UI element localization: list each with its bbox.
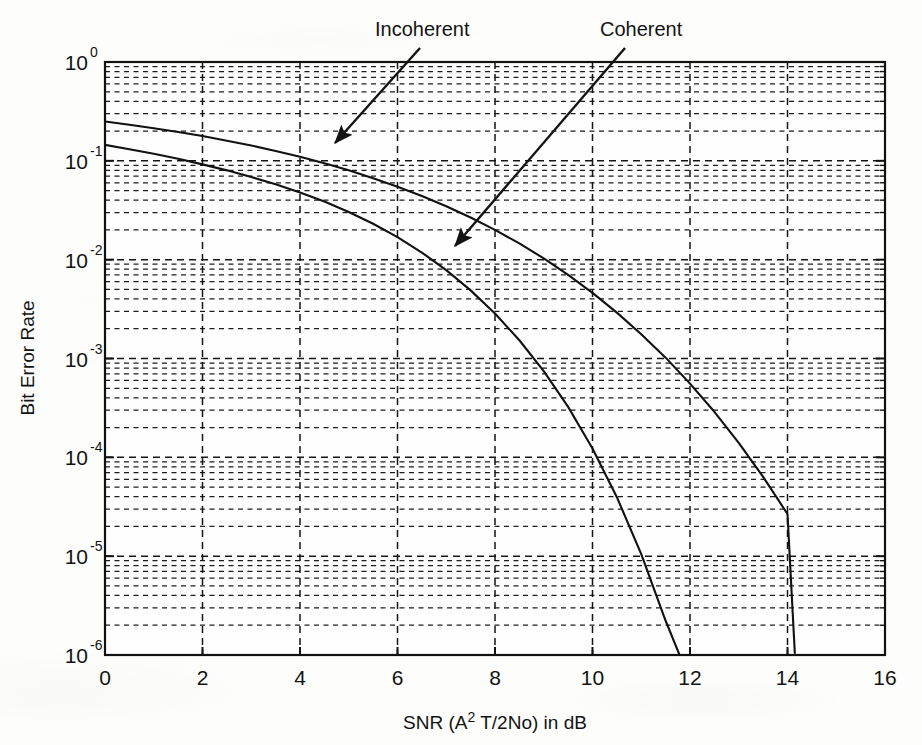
y-tick-label: 10-4: [65, 439, 103, 469]
x-tick-label: 10: [581, 666, 604, 689]
svg-text:10: 10: [65, 249, 88, 272]
y-tick-label: 10-6: [65, 637, 103, 667]
svg-text:10: 10: [65, 644, 88, 667]
svg-text:-5: -5: [90, 538, 103, 554]
y-tick-label: 100: [65, 44, 98, 74]
x-tick-label: 6: [392, 666, 404, 689]
svg-text:Bit Error Rate: Bit Error Rate: [17, 300, 38, 415]
y-axis-tick-labels: 10010-110-210-310-410-510-6: [65, 44, 103, 667]
y-tick-label: 10-2: [65, 242, 103, 272]
svg-text:-6: -6: [90, 637, 103, 653]
svg-text:-4: -4: [90, 439, 103, 455]
svg-text:10: 10: [65, 51, 88, 74]
annotation-label-coherent: Coherent: [600, 18, 683, 40]
x-axis-title: SNR (A2 T/2No) in dB: [403, 709, 587, 733]
svg-text:10: 10: [65, 446, 88, 469]
x-tick-label: 12: [678, 666, 701, 689]
x-tick-label: 4: [294, 666, 306, 689]
annotation-label-incoherent: Incoherent: [375, 18, 470, 40]
svg-text:SNR (A2 T/2No) in dB: SNR (A2 T/2No) in dB: [403, 709, 587, 733]
svg-text:-1: -1: [90, 143, 103, 159]
ber-chart: 0246810121416 10010-110-210-310-410-510-…: [0, 0, 922, 745]
x-tick-label: 2: [197, 666, 209, 689]
x-tick-label: 8: [489, 666, 501, 689]
y-tick-label: 10-1: [65, 143, 103, 173]
svg-text:10: 10: [65, 348, 88, 371]
x-tick-label: 0: [99, 666, 111, 689]
x-axis-tick-labels: 0246810121416: [99, 666, 897, 689]
svg-text:-2: -2: [90, 242, 103, 258]
svg-text:0: 0: [90, 44, 98, 60]
scanned-figure-page: 0246810121416 10010-110-210-310-410-510-…: [0, 0, 922, 745]
y-tick-label: 10-3: [65, 341, 103, 371]
svg-text:10: 10: [65, 150, 88, 173]
svg-text:10: 10: [65, 545, 88, 568]
svg-text:-3: -3: [90, 341, 103, 357]
x-tick-label: 16: [873, 666, 896, 689]
y-axis-title: Bit Error Rate: [17, 300, 38, 415]
x-tick-label: 14: [776, 666, 800, 689]
y-tick-label: 10-5: [65, 538, 103, 568]
